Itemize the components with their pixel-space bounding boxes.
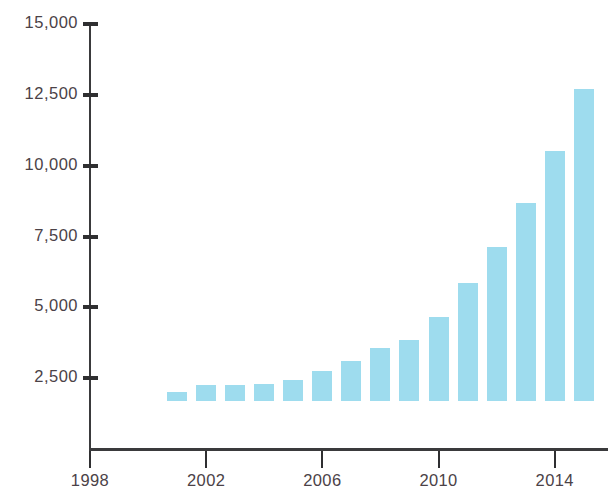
x-axis-tick (554, 451, 556, 468)
bar-chart: 2,5005,0007,50010,00012,50015,000 199820… (0, 0, 608, 497)
bar (458, 283, 478, 401)
x-axis-tick (321, 451, 323, 468)
x-axis-tick (89, 451, 91, 468)
bar (429, 317, 449, 401)
x-axis-tick-label: 2014 (515, 471, 595, 490)
bar (341, 361, 361, 401)
bar (370, 348, 390, 401)
bar (487, 247, 507, 401)
bar (574, 89, 594, 401)
bar (283, 380, 303, 401)
x-axis-tick-label: 1998 (50, 471, 130, 490)
bar (545, 151, 565, 401)
bar (312, 371, 332, 401)
x-axis-tick-label: 2002 (166, 471, 246, 490)
x-axis-tick (438, 451, 440, 468)
bar (516, 203, 536, 401)
x-axis-line (89, 448, 608, 451)
bar (225, 385, 245, 401)
bar (167, 392, 187, 401)
x-axis-tick (205, 451, 207, 468)
bar (254, 384, 274, 401)
bar (196, 385, 216, 401)
x-axis-tick-label: 2010 (399, 471, 479, 490)
bar (399, 340, 419, 401)
bar-series (0, 0, 608, 401)
x-axis-tick-label: 2006 (282, 471, 362, 490)
bars-layer (0, 0, 608, 449)
